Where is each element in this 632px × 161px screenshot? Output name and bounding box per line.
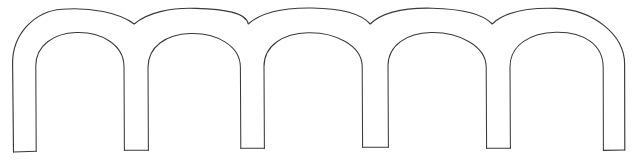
left-leg-base-path (14, 151, 37, 152)
drawing-canvas: Arcade with five round arches Hand-drawn… (0, 0, 632, 161)
canvas-background (0, 0, 632, 161)
arcade-drawing (0, 0, 632, 161)
